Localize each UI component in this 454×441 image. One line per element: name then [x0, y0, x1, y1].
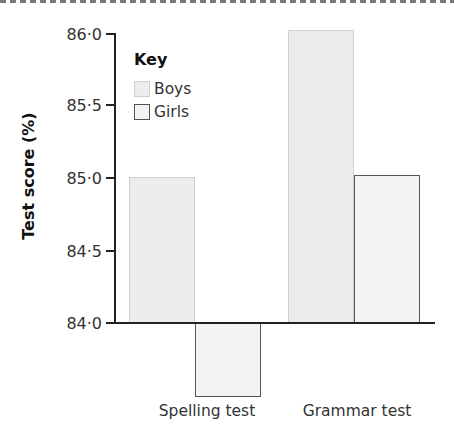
y-axis-label: Test score (%) [19, 112, 38, 239]
x-axis-baseline [106, 322, 435, 324]
legend-item-boys: Boys [134, 80, 191, 98]
y-tick-label: 85·0 [54, 169, 102, 188]
legend-label: Boys [154, 80, 191, 98]
legend-title: Key [134, 50, 167, 69]
y-tick-label: 84·0 [54, 314, 102, 333]
y-tick-label: 85·5 [54, 96, 102, 115]
bar-boys-grammar [288, 30, 354, 323]
legend-item-girls: Girls [134, 103, 189, 121]
legend-swatch-girls [134, 104, 150, 120]
y-tick-label: 84·5 [54, 242, 102, 261]
y-axis-line [114, 33, 116, 324]
legend-label: Girls [154, 103, 189, 121]
y-tick-label: 86·0 [54, 25, 102, 44]
legend-swatch-boys [134, 81, 150, 97]
bar-boys-spelling [129, 177, 195, 323]
x-category-label: Spelling test [159, 402, 256, 420]
bar-girls-grammar [354, 175, 420, 323]
bar-chart: Test score (%) 86·0 85·5 85·0 84·5 84·0 … [0, 0, 454, 441]
bar-girls-spelling [195, 322, 261, 397]
x-category-label: Grammar test [303, 402, 412, 420]
